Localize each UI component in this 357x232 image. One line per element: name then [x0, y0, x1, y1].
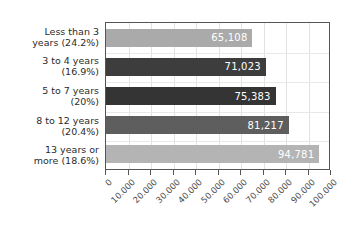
- category-label: 8 to 12 years (20.4%): [0, 111, 103, 141]
- bar-value-label: 75,383: [234, 91, 275, 102]
- category-label: 5 to 7 years (20%): [0, 81, 103, 111]
- category-label: 13 years or more (18.6%): [0, 140, 103, 170]
- bar-value-label: 71,023: [225, 61, 266, 72]
- bar: 81,217: [106, 116, 289, 134]
- bar: 65,108: [106, 29, 252, 47]
- axis-tick: [240, 170, 241, 175]
- axis-tick: [218, 170, 219, 175]
- bar-value-label: 81,217: [248, 120, 289, 131]
- value-axis: 010.00020.00030.00040.00050.00060.00070.…: [105, 170, 330, 232]
- bar: 75,383: [106, 87, 276, 105]
- bar-slot: 81,217: [106, 111, 329, 140]
- axis-tick: [285, 170, 286, 175]
- bar-slot: 94,781: [106, 140, 329, 169]
- axis-tick: [150, 170, 151, 175]
- category-label: 3 to 4 years (16.9%): [0, 52, 103, 82]
- bar-slot: 75,383: [106, 81, 329, 110]
- axis-tick: [330, 170, 331, 175]
- axis-tick: [105, 170, 106, 175]
- bar: 94,781: [106, 145, 319, 163]
- plot-area: 65,108 71,023 75,383 81,217 94,7: [105, 22, 330, 170]
- axis-tick: [308, 170, 309, 175]
- category-label: Less than 3 years (24.2%): [0, 22, 103, 52]
- bar-slot: 65,108: [106, 23, 329, 52]
- axis-tick: [173, 170, 174, 175]
- bar-value-label: 94,781: [278, 149, 319, 160]
- bar: 71,023: [106, 58, 266, 76]
- axis-tick: [263, 170, 264, 175]
- bar-slot: 71,023: [106, 52, 329, 81]
- bar-chart: Less than 3 years (24.2%) 3 to 4 years (…: [0, 0, 357, 232]
- bar-value-label: 65,108: [211, 32, 252, 43]
- axis-tick: [195, 170, 196, 175]
- category-axis: Less than 3 years (24.2%) 3 to 4 years (…: [0, 22, 103, 170]
- axis-tick: [128, 170, 129, 175]
- bars-layer: 65,108 71,023 75,383 81,217 94,7: [106, 23, 329, 169]
